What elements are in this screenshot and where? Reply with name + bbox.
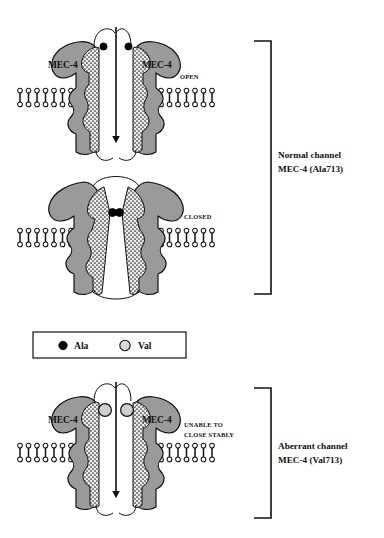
subunit-left-label-aberrant: MEC-4 (48, 415, 78, 425)
residue-val-right-aberrant (121, 404, 134, 417)
state-label-aberrant-line1: UNABLE TO (184, 421, 223, 428)
subunit-left-label-open: MEC-4 (48, 60, 78, 70)
bracket-normal-line1: Normal channel (278, 150, 341, 160)
legend: Ala Val (33, 332, 186, 358)
legend-label-val: Val (138, 340, 152, 351)
legend-marker-ala (59, 341, 67, 349)
bracket-normal-line2: MEC-4 (Ala713) (278, 164, 343, 174)
bracket-aberrant-line2: MEC-4 (Val713) (278, 455, 342, 465)
legend-box (33, 332, 186, 358)
bracket-aberrant-line1: Aberrant channel (278, 441, 348, 451)
residue-ala-left-open (100, 43, 107, 50)
legend-label-ala: Ala (74, 340, 89, 351)
residue-val-left-aberrant (99, 404, 112, 417)
state-label-open: OPEN (180, 73, 199, 80)
residue-ala-right-closed (116, 209, 124, 217)
mec4-channel-figure: MEC-4 MEC-4 OPEN (0, 0, 384, 538)
figure-container: MEC-4 MEC-4 OPEN (0, 0, 384, 538)
legend-marker-val (120, 340, 130, 350)
state-label-aberrant-line2: CLOSE STABLY (184, 431, 234, 438)
state-label-closed: CLOSED (184, 213, 212, 220)
subunit-right-label-aberrant: MEC-4 (142, 415, 172, 425)
residue-ala-right-open (125, 43, 132, 50)
subunit-right-label-open: MEC-4 (142, 60, 172, 70)
